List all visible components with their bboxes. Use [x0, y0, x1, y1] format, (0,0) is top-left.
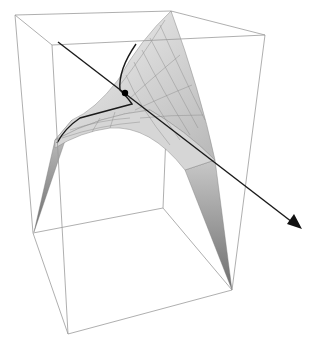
- intersection-point: [122, 90, 128, 96]
- saddle-surface: [34, 11, 232, 290]
- surface-diagram: [0, 0, 316, 348]
- arrowhead-icon: [287, 214, 302, 229]
